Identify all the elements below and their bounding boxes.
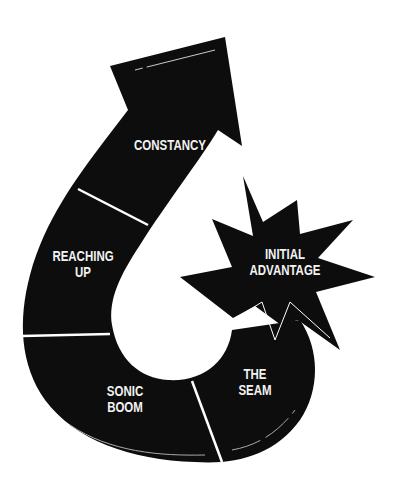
starburst-label-line1: INITIAL [244,246,326,262]
stage-label-sonic-boom-line1: SONIC [96,383,153,399]
stage-label-sonic-boom-line2: BOOM [96,399,153,415]
stage-label-the-seam: THE SEAM [230,366,279,398]
starburst-label-line2: ADVANTAGE [244,262,326,278]
stage-label-constancy-line1: CONSTANCY [121,137,219,153]
diagram-canvas: CONSTANCY REACHING UP SONIC BOOM THE SEA… [0,0,399,500]
starburst-label-initial-advantage: INITIAL ADVANTAGE [244,246,326,278]
stage-label-constancy: CONSTANCY [121,137,219,153]
stage-label-reaching-up: REACHING UP [46,248,120,280]
stage-label-the-seam-line1: THE [230,366,279,382]
stage-label-sonic-boom: SONIC BOOM [96,383,153,415]
stage-label-the-seam-line2: SEAM [230,382,279,398]
stage-label-reaching-up-line2: UP [46,264,120,280]
stage-label-reaching-up-line1: REACHING [46,248,120,264]
